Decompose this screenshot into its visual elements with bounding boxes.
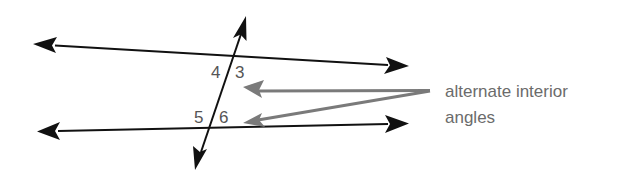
left-arrowhead-icon	[37, 122, 60, 140]
transversal-line	[193, 16, 247, 170]
angle-label-4: 4	[211, 63, 220, 82]
caption-line-2: angles	[445, 108, 495, 127]
right-arrowhead-icon	[385, 115, 409, 133]
caption-line-1: alternate interior	[445, 82, 568, 101]
pointer-to-angle-3	[258, 91, 430, 92]
angle-label-5: 5	[194, 108, 203, 127]
arrowhead-icon	[243, 80, 264, 98]
angle-label-6: 6	[219, 108, 228, 127]
top-parallel-line	[33, 37, 409, 74]
pointer-to-angle-6	[258, 91, 430, 120]
pointer-arrows	[243, 80, 430, 127]
transversal-diagram: 4 3 5 6 alternate interior angles	[0, 0, 626, 181]
left-arrowhead-icon	[33, 37, 57, 53]
bottom-arrowhead-icon	[193, 146, 207, 170]
angle-label-3: 3	[235, 63, 244, 82]
